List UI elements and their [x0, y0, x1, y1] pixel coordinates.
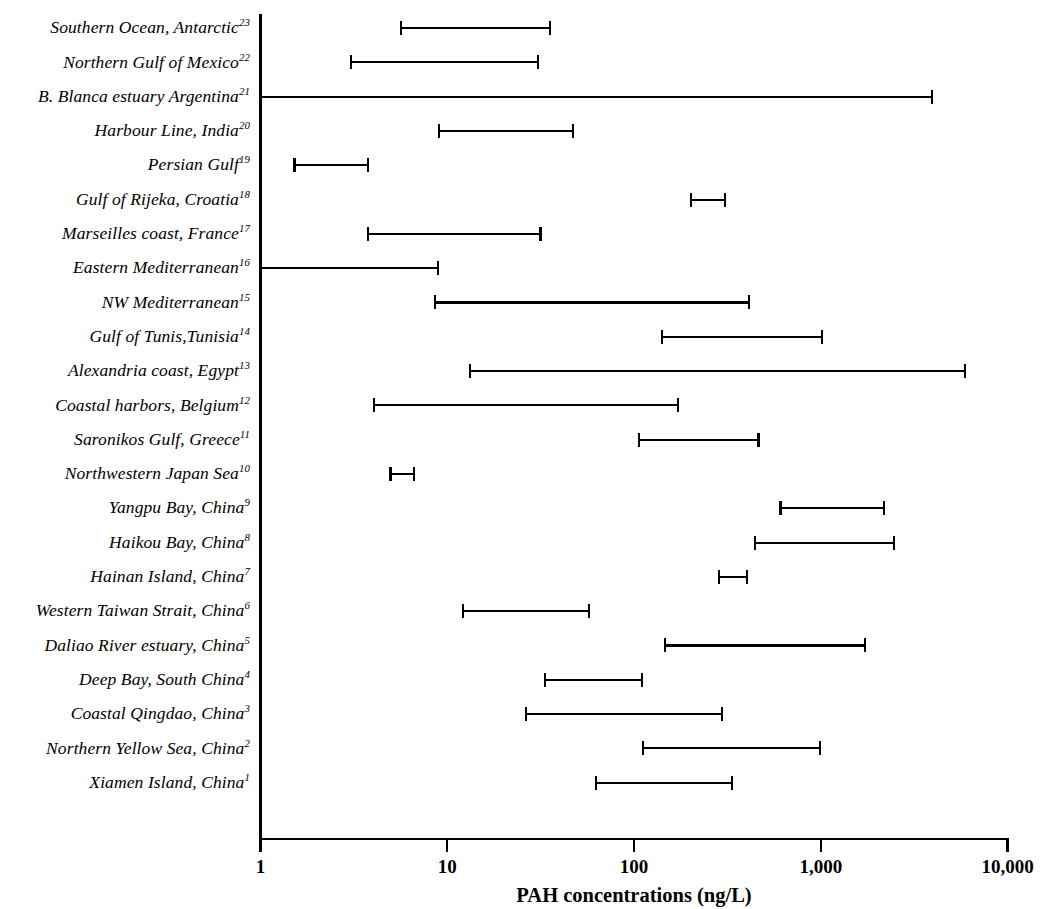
range-bar-line [400, 27, 551, 29]
category-label: Saronikos Gulf, Greece11 [74, 431, 250, 449]
range-bar-line [469, 370, 967, 372]
range-bar [350, 53, 539, 71]
category-label-row: Yangpu Bay, China9 [109, 498, 250, 518]
range-bar-max-cap [413, 467, 415, 481]
category-label: Gulf of Tunis,Tunisia14 [90, 328, 251, 346]
chart-plot-area: Southern Ocean, Antarctic23Northern Gulf… [0, 0, 1051, 909]
reference-superscript: 7 [244, 565, 250, 577]
category-label-text: B. Blanca estuary Argentina [38, 86, 239, 106]
range-bar-line [544, 679, 643, 681]
category-label: Harbour Line, India20 [95, 122, 250, 140]
category-label-text: Southern Ocean, Antarctic [50, 17, 239, 37]
category-label: Xiamen Island, China1 [89, 774, 250, 792]
range-bar-max-cap [819, 741, 821, 755]
category-label-text: Western Taiwan Strait, China [36, 600, 245, 620]
range-bar-line [261, 96, 934, 98]
range-bar-max-cap [724, 193, 726, 207]
reference-superscript: 16 [239, 257, 250, 269]
x-tick-label: 1 [256, 856, 266, 878]
category-label: Western Taiwan Strait, China6 [36, 602, 250, 620]
category-label-row: Marseilles coast, France17 [62, 224, 250, 244]
category-label-row: Southern Ocean, Antarctic23 [50, 18, 250, 38]
range-bar-line [389, 473, 414, 475]
range-bar-min-cap [293, 158, 295, 172]
range-bar-max-cap [893, 536, 895, 550]
range-bar [664, 636, 866, 654]
range-bar-max-cap [964, 364, 966, 378]
range-bar [434, 293, 750, 311]
range-bar [779, 499, 884, 517]
range-bar-max-cap [537, 55, 539, 69]
category-label: NW Mediterranean15 [102, 294, 250, 312]
range-bar [389, 465, 414, 483]
reference-superscript: 10 [239, 462, 250, 474]
category-label: Alexandria coast, Egypt13 [68, 362, 250, 380]
category-label-text: Haikou Bay, China [109, 532, 244, 552]
reference-superscript: 11 [240, 428, 250, 440]
range-bar-max-cap [677, 398, 679, 412]
category-label-text: Northwestern Japan Sea [65, 463, 239, 483]
reference-superscript: 12 [239, 394, 250, 406]
range-bar-min-cap [642, 741, 644, 755]
range-bar [462, 602, 590, 620]
range-bar-min-cap [754, 536, 756, 550]
range-bar-max-cap [549, 21, 551, 35]
range-bar-max-cap [367, 158, 369, 172]
category-label-text: Saronikos Gulf, Greece [74, 429, 240, 449]
category-label: Eastern Mediterranean16 [73, 259, 250, 277]
range-bar [718, 568, 749, 586]
x-tick-mark [1006, 838, 1008, 852]
category-label-text: Deep Bay, South China [79, 669, 244, 689]
category-label-text: Persian Gulf [148, 154, 239, 174]
range-bar [595, 774, 733, 792]
category-label-text: NW Mediterranean [102, 292, 239, 312]
reference-superscript: 14 [239, 325, 250, 337]
category-label-column: Southern Ocean, Antarctic23Northern Gulf… [0, 0, 256, 840]
range-bar [642, 739, 821, 757]
range-bar-max-cap [757, 433, 759, 447]
range-bar-line [661, 336, 823, 338]
category-label: Gulf of Rijeka, Croatia18 [76, 191, 250, 209]
range-bar-min-cap [438, 124, 440, 138]
reference-superscript: 1 [244, 771, 250, 783]
range-bar-min-cap [373, 398, 375, 412]
category-label-text: Hainan Island, China [90, 566, 244, 586]
category-label-text: Coastal Qingdao, China [71, 703, 245, 723]
range-bar-line [754, 542, 895, 544]
category-label-row: Saronikos Gulf, Greece11 [74, 430, 250, 450]
range-bar [373, 396, 679, 414]
category-label-row: Gulf of Tunis,Tunisia14 [90, 327, 251, 347]
category-label: Northwestern Japan Sea10 [65, 465, 250, 483]
range-bar-min-cap [638, 433, 640, 447]
range-bar-min-cap [544, 673, 546, 687]
category-label: Coastal Qingdao, China3 [71, 705, 250, 723]
range-bar-min-cap [350, 55, 352, 69]
range-bar-max-cap [731, 776, 733, 790]
reference-superscript: 4 [244, 668, 250, 680]
range-bar-line [293, 164, 368, 166]
category-label-text: Northern Gulf of Mexico [63, 52, 239, 72]
range-bar [661, 328, 823, 346]
range-bar [638, 431, 760, 449]
range-bar-max-cap [864, 638, 866, 652]
range-bar-min-cap [434, 295, 436, 309]
range-bar-line [462, 610, 590, 612]
x-tick-mark [820, 838, 822, 852]
category-label-row: Northern Yellow Sea, China2 [46, 738, 250, 758]
range-bar-max-cap [588, 604, 590, 618]
range-bar-min-cap [779, 501, 781, 515]
range-bar-max-cap [721, 707, 723, 721]
range-bar-line [718, 576, 749, 578]
range-bar-line [434, 301, 750, 303]
range-bar-line [779, 507, 884, 509]
category-label-row: NW Mediterranean15 [102, 292, 250, 312]
range-bar [293, 156, 368, 174]
range-bar-line [595, 782, 733, 784]
category-label-row: Deep Bay, South China4 [79, 670, 250, 690]
range-bar-line [638, 439, 760, 441]
category-label-row: Coastal Qingdao, China3 [71, 704, 250, 724]
x-axis-title: PAH concentrations (ng/L) [516, 884, 751, 907]
range-bar-line [525, 713, 723, 715]
category-label-text: Alexandria coast, Egypt [68, 360, 239, 380]
category-label-row: Coastal harbors, Belgium12 [55, 395, 250, 415]
